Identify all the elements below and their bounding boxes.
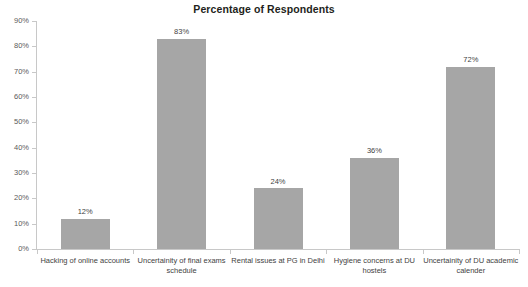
bar-value-label: 36% — [367, 147, 382, 155]
y-axis-tick-label: 60% — [0, 93, 29, 101]
y-axis-tick-label: 30% — [0, 169, 29, 177]
x-axis-category-label: Uncertainity of final examsschedule — [133, 256, 229, 276]
bar[interactable] — [61, 219, 110, 249]
y-axis-tick-label: 20% — [0, 194, 29, 202]
x-axis-tick — [423, 250, 424, 254]
y-axis-tick — [32, 198, 36, 199]
bar-group: 36% — [350, 21, 399, 249]
x-axis-category-label-line: hostels — [326, 266, 422, 276]
x-axis-category-label-line: Uncertainity of DU academic — [423, 256, 519, 266]
y-axis-tick — [32, 224, 36, 225]
x-axis-tick — [519, 250, 520, 254]
x-axis-tick — [133, 250, 134, 254]
y-axis-tick — [32, 249, 36, 250]
bar[interactable] — [446, 67, 495, 249]
x-axis-tick — [326, 250, 327, 254]
y-axis-tick — [32, 72, 36, 73]
y-axis-tick-label: 90% — [0, 17, 29, 25]
y-axis-tick — [32, 173, 36, 174]
y-axis-tick-label: 0% — [0, 245, 29, 253]
bar[interactable] — [157, 39, 206, 249]
y-axis-tick — [32, 21, 36, 22]
y-axis-tick — [32, 46, 36, 47]
y-axis-tick-label: 40% — [0, 144, 29, 152]
y-axis-tick — [32, 122, 36, 123]
bar-chart: Percentage of Respondents 0%10%20%30%40%… — [0, 0, 528, 287]
x-axis-category-label: Hygiene concerns at DUhostels — [326, 256, 422, 276]
x-axis-category-label-line: schedule — [133, 266, 229, 276]
bar-group: 83% — [157, 21, 206, 249]
bar-value-label: 83% — [174, 28, 189, 36]
x-axis-tick — [230, 250, 231, 254]
plot-area: 12%83%24%36%72% — [37, 21, 519, 249]
y-axis-tick-label: 70% — [0, 68, 29, 76]
bar-value-label: 12% — [78, 208, 93, 216]
y-axis-tick — [32, 148, 36, 149]
x-axis-category-label-line: Hygiene concerns at DU — [326, 256, 422, 266]
x-axis-tick — [37, 250, 38, 254]
x-axis-category-label-line: Rental issues at PG in Delhi — [230, 256, 326, 266]
x-axis-category-label: Uncertainity of DU academiccalender — [423, 256, 519, 276]
chart-title: Percentage of Respondents — [0, 3, 528, 15]
y-axis-tick-label: 80% — [0, 42, 29, 50]
bar[interactable] — [254, 188, 303, 249]
x-axis-category-label-line: Uncertainity of final exams — [133, 256, 229, 266]
y-axis-tick-label: 10% — [0, 220, 29, 228]
bar-group: 12% — [61, 21, 110, 249]
bar-value-label: 24% — [270, 178, 285, 186]
x-axis-category-label-line: Hacking of online accounts — [37, 256, 133, 266]
x-axis-category-label: Hacking of online accounts — [37, 256, 133, 266]
x-axis-category-label: Rental issues at PG in Delhi — [230, 256, 326, 266]
bar[interactable] — [350, 158, 399, 249]
bar-group: 24% — [254, 21, 303, 249]
y-axis-tick — [32, 97, 36, 98]
y-axis-tick-label: 50% — [0, 118, 29, 126]
bar-value-label: 72% — [463, 56, 478, 64]
bar-group: 72% — [446, 21, 495, 249]
x-axis-category-label-line: calender — [423, 266, 519, 276]
x-axis-line — [36, 249, 520, 250]
